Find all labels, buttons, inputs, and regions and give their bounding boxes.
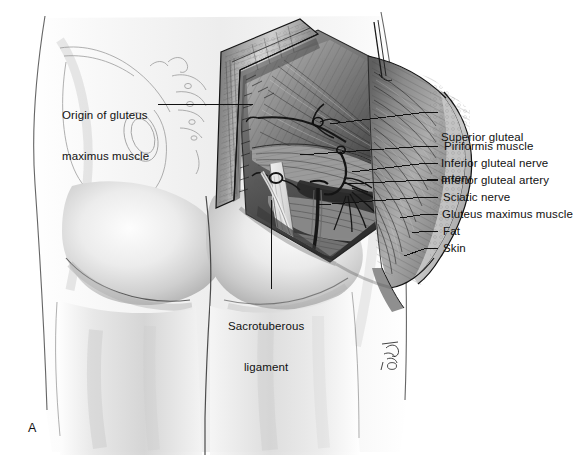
label-piriformis-muscle: Piriformis muscle (444, 140, 534, 154)
label-origin-gluteus-maximus: Origin of gluteus maximus muscle (62, 82, 149, 190)
label-fat: Fat (443, 225, 460, 239)
label-skin: Skin (443, 242, 466, 256)
label-sacrotuberous-ligament: Sacrotuberous ligament (228, 293, 304, 401)
label-inferior-gluteal-nerve: Inferior gluteal nerve (441, 157, 548, 171)
anatomical-figure: Origin of gluteus maximus muscle Sacrotu… (0, 0, 585, 455)
panel-letter: A (28, 421, 36, 435)
label-sciatic-nerve: Sciatic nerve (443, 191, 510, 205)
label-gluteus-maximus-muscle: Gluteus maximus muscle (442, 208, 573, 222)
label-inferior-gluteal-artery: Inferior gluteal artery (441, 174, 549, 188)
